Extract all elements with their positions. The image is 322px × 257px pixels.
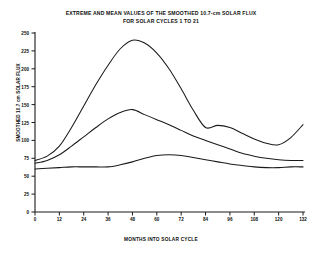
- y-tick-label: 225: [21, 48, 29, 53]
- x-tick-label: 36: [106, 217, 111, 222]
- y-tick-label: 250: [21, 31, 29, 36]
- x-tick-label: 24: [81, 217, 86, 222]
- x-tick-label: 120: [275, 217, 283, 222]
- series-line-minimum: [35, 155, 303, 169]
- x-tick-label: 72: [179, 217, 184, 222]
- x-tick-label: 84: [203, 217, 208, 222]
- x-tick-label: 12: [57, 217, 62, 222]
- solar-flux-chart-figure: EXTREME AND MEAN VALUES OF THE SMOOTHED …: [0, 0, 322, 257]
- plot-canvas: [0, 0, 322, 257]
- x-tick-label: 60: [154, 217, 159, 222]
- y-tick-label: 25: [24, 192, 29, 197]
- axes: [35, 32, 305, 212]
- y-tick-label: 100: [21, 138, 29, 143]
- y-tick-label: 50: [24, 174, 29, 179]
- y-tick-label: 200: [21, 66, 29, 71]
- y-axis-title: SMOOTHED 10.7 cm SOLAR FLUX: [16, 58, 21, 148]
- data-series-group: [35, 40, 303, 169]
- x-tick-label: 132: [299, 217, 307, 222]
- x-tick-label: 96: [227, 217, 232, 222]
- x-tick-label: 48: [130, 217, 135, 222]
- y-tick-label: 150: [21, 102, 29, 107]
- x-tick-label: 0: [34, 217, 37, 222]
- x-tick-label: 108: [250, 217, 258, 222]
- series-line-maximum: [35, 40, 303, 161]
- series-line-mean: [35, 110, 303, 164]
- y-tick-label: 75: [24, 156, 29, 161]
- y-tick-label: 175: [21, 84, 29, 89]
- x-axis-title: MONTHS INTO SOLAR CYCLE: [0, 237, 322, 242]
- y-tick-label: 125: [21, 120, 29, 125]
- y-tick-label: 0: [26, 210, 29, 215]
